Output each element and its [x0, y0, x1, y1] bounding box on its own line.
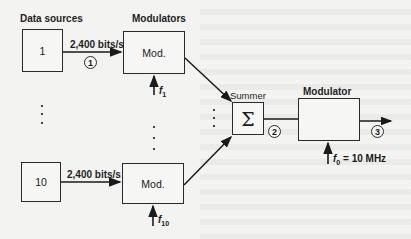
point-marker-3: 3 — [371, 125, 384, 138]
data-source-1: 1 — [22, 29, 63, 72]
sigma-icon: Σ — [241, 108, 254, 130]
summer-label: Summer — [230, 90, 266, 101]
final-modulator — [298, 98, 360, 141]
freq-label-f1: f1 — [159, 85, 166, 98]
modulator-10-label: Mod. — [141, 178, 164, 190]
freq-label-f0: f0 = 10 MHz — [333, 153, 386, 166]
data-source-10-label: 10 — [35, 176, 47, 188]
modulator-10: Mod. — [122, 163, 184, 204]
point-marker-1: 1 — [84, 56, 97, 69]
modulator-1-label: Mod. — [142, 47, 165, 59]
modulators-label: Modulators — [132, 13, 186, 24]
freq-label-f10: f10 — [158, 214, 169, 227]
modulator-1: Mod. — [123, 31, 185, 74]
data-source-1-label: 1 — [40, 45, 46, 57]
rate-label-1: 2,400 bits/s — [70, 39, 124, 50]
summer-block: Σ — [232, 102, 264, 135]
data-sources-label: Data sources — [20, 13, 83, 24]
modulator-label: Modulator — [303, 86, 351, 97]
point-marker-2: 2 — [268, 125, 281, 138]
ellipsis-dots — [41, 105, 215, 150]
data-source-10: 10 — [21, 162, 61, 202]
rate-label-10: 2,400 bits/s — [67, 169, 121, 180]
